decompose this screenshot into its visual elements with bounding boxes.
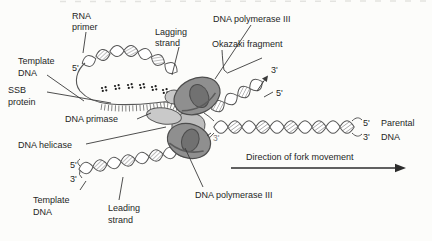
fork-junction-top bbox=[204, 113, 214, 121]
lagging-strand-helix bbox=[80, 45, 180, 77]
five-prime-right-label: 5' bbox=[276, 88, 283, 98]
ssb-dots-cluster bbox=[151, 85, 158, 91]
parental-dna-helix bbox=[203, 113, 362, 143]
template-dna-top-label-line1: Template bbox=[18, 56, 55, 66]
helix-twist bbox=[214, 121, 228, 134]
rna-primer-label-line2: primer bbox=[72, 22, 98, 32]
dna-helicase-pointer bbox=[86, 127, 166, 144]
helix-twist bbox=[95, 48, 111, 61]
template-dna-top-label-line2: DNA bbox=[18, 68, 37, 78]
rna-primer-pointer bbox=[83, 32, 86, 53]
ssb-protein-label-line1: SSB bbox=[8, 85, 26, 95]
three-prime-right-label: 3' bbox=[271, 65, 278, 75]
parental-strand-end-top bbox=[352, 118, 362, 121]
lagging-strand-label-line2: strand bbox=[155, 38, 180, 48]
arrow-head bbox=[395, 164, 406, 172]
helix-twist bbox=[326, 121, 340, 134]
helix-twist bbox=[106, 156, 122, 170]
three-prime-left-label: 3' bbox=[70, 174, 77, 184]
five-prime-pointer bbox=[264, 92, 273, 97]
helix-twist bbox=[120, 154, 136, 168]
helix-twist bbox=[242, 121, 256, 134]
helix-twist bbox=[80, 53, 97, 68]
parental-five-prime-label: 5' bbox=[363, 118, 370, 128]
helix-twist bbox=[110, 45, 125, 57]
replication-fork-figure: RNA primer Lagging strand DNA polymerase… bbox=[0, 0, 432, 241]
dna-polymerase-top-label: DNA polymerase III bbox=[213, 14, 291, 24]
helix-twist bbox=[134, 151, 150, 165]
rna-primer-label-line1: RNA bbox=[72, 11, 91, 21]
helix-twist bbox=[340, 121, 354, 134]
dna-helicase-label: DNA helicase bbox=[18, 140, 72, 150]
helix-twist bbox=[123, 45, 138, 57]
ssb-dots-cluster bbox=[127, 83, 133, 89]
parental-word-label: Parental bbox=[381, 118, 415, 128]
arrow-head bbox=[262, 76, 268, 83]
helix-twist bbox=[270, 121, 284, 134]
parental-dna-label: DNA bbox=[381, 132, 400, 142]
helix-twist bbox=[312, 121, 326, 134]
helix-twist bbox=[78, 161, 94, 175]
dna-primase-label: DNA primase bbox=[65, 114, 118, 124]
five-prime-top-label: 5' bbox=[72, 63, 79, 73]
ssb-protein-label-line2: protein bbox=[8, 97, 36, 107]
diagram-svg: RNA primer Lagging strand DNA polymerase… bbox=[0, 0, 432, 241]
ssb-protein-dots bbox=[101, 83, 168, 94]
okazaki-fragment-label: Okazaki fragment bbox=[212, 39, 283, 49]
leading-strand-end-top bbox=[78, 159, 80, 166]
helix-twist bbox=[92, 159, 108, 173]
fork-movement-arrow bbox=[231, 164, 406, 172]
helix-twist bbox=[137, 47, 154, 61]
okazaki-fragment-bracket bbox=[222, 50, 262, 73]
helix-twist bbox=[148, 149, 164, 163]
helix-twist bbox=[284, 121, 298, 134]
lagging-strand-label-line1: Lagging bbox=[155, 27, 187, 37]
leading-strand-pointer bbox=[119, 177, 123, 200]
five-prime-left-label: 5' bbox=[70, 160, 77, 170]
scan-artifact-line bbox=[60, 1, 430, 2]
three-prime-inner-label: 3' bbox=[213, 133, 220, 143]
ssb-dots-cluster bbox=[114, 84, 121, 90]
template-dna-bottom-label-line1: Template bbox=[33, 195, 70, 205]
ssb-dots-cluster bbox=[101, 86, 108, 92]
leading-strand-label-line2: strand bbox=[108, 215, 133, 225]
dna-polymerase-bottom-label: DNA polymerase III bbox=[195, 190, 273, 200]
template-dna-bottom-label-line2: DNA bbox=[33, 207, 52, 217]
direction-of-fork-movement-label: Direction of fork movement bbox=[246, 152, 354, 162]
template-dna-bottom-pointer bbox=[80, 181, 86, 190]
helix-twist bbox=[256, 121, 270, 134]
helix-twist bbox=[228, 121, 242, 134]
helix-twist bbox=[298, 121, 312, 134]
parental-three-prime-label: 3' bbox=[363, 132, 370, 142]
ssb-protein-pointer bbox=[47, 92, 111, 103]
leading-strand-label-line1: Leading bbox=[108, 203, 140, 213]
parental-strand-end-bottom bbox=[352, 133, 362, 136]
ssb-dots-cluster bbox=[139, 83, 146, 89]
